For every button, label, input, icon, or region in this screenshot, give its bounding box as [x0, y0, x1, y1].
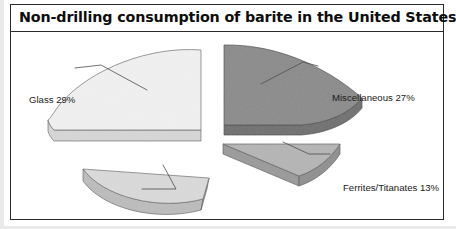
scan-edge-left	[0, 0, 4, 229]
figure-panel: Non-drilling consumption of barite in th…	[0, 0, 456, 229]
slice-label-ceramics: Ceramics 31%	[66, 218, 128, 219]
pie-slice-ceramics[interactable]	[83, 169, 209, 214]
slice-label-ferrites-titanates: Ferrites/Titanates 13%	[343, 182, 439, 193]
pie-slice-miscellaneous[interactable]	[224, 45, 362, 135]
pie-slice-ferrites[interactable]	[223, 144, 340, 186]
slice-label-glass: Glass 29%	[29, 94, 75, 105]
scan-edge-bottom	[0, 226, 456, 229]
slice-label-miscellaneous: Miscellaneous 27%	[332, 92, 415, 103]
chart-title: Non-drilling consumption of barite in th…	[19, 9, 437, 25]
pie-chart-plot-area: Glass 29% Miscellaneous 27% Ferrites/Tit…	[11, 32, 443, 219]
